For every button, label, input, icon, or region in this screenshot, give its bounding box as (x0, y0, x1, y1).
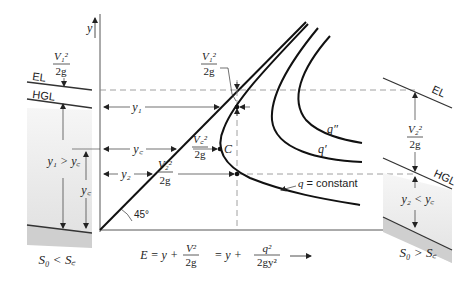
q-label-pointer (281, 186, 296, 190)
left-slope-relation: S₀ < S꜀ (39, 252, 77, 267)
critical-point-label: C (224, 142, 233, 156)
label-y2: y₂ (120, 167, 131, 181)
eq-term1-den: 2g (186, 256, 198, 268)
right-velocity-head-den: 2g (410, 138, 422, 150)
eq-lhs: E = y + (139, 248, 178, 262)
left-depth-relation: y₁ > y꜀ (47, 154, 82, 168)
left-water-fill (27, 108, 92, 232)
axes: y 45° (86, 14, 416, 232)
critical-point-dot (218, 147, 223, 152)
angle-arc (121, 209, 132, 221)
eq-term2-num: q² (263, 242, 273, 254)
label-q-constant: q = constant (298, 177, 358, 189)
right-slope-relation: S₀ > S꜀ (400, 245, 438, 260)
left-channel: EL HGL V₁² 2g y₁ > y꜀ y꜀ S₀ < S꜀ (27, 50, 100, 267)
v2-head-den: 2g (160, 174, 172, 186)
y-axis-label: y (86, 21, 93, 35)
dashed-guides (100, 80, 415, 230)
label-q-double-prime: q″ (327, 122, 339, 136)
left-critical-depth: y꜀ (80, 183, 91, 197)
v1-head-num: V₁² (202, 50, 217, 62)
label-yc: y꜀ (132, 142, 143, 156)
right-hgl-label: HGL (432, 167, 458, 187)
left-velocity-head-den: 2g (56, 65, 68, 77)
right-el-label: EL (430, 83, 447, 100)
label-y1: y₁ (131, 100, 142, 114)
vc-head-den: 2g (195, 148, 207, 160)
label-q-prime: q′ (318, 142, 327, 156)
y2-point (235, 172, 240, 177)
x-axis-equation: E = y + V² 2g = y + q² 2gy² (139, 242, 311, 268)
eq-term2-den: 2gy² (257, 256, 278, 268)
eq-mid: = y + (214, 248, 242, 262)
left-velocity-head-num: V₁² (54, 50, 69, 62)
eq-term1-num: V² (186, 242, 197, 254)
specific-energy-diagram: EL HGL V₁² 2g y₁ > y꜀ y꜀ S₀ < S꜀ y 45° (0, 0, 475, 281)
right-channel: EL HGL V₂² 2g y₂ < y꜀ S₀ > S꜀ (383, 78, 458, 263)
right-velocity-head-num: V₂² (408, 123, 423, 135)
left-el-label: EL (32, 70, 47, 84)
q-equals-constant: = constant (304, 177, 358, 189)
angle-label: 45° (134, 209, 149, 220)
v1-head-den: 2g (204, 65, 216, 77)
vc-head-num: V꜀² (193, 133, 208, 145)
v2-head-num: V₂² (158, 158, 173, 170)
y1-point (235, 105, 240, 110)
right-depth-relation: y₂ < y꜀ (401, 192, 436, 206)
